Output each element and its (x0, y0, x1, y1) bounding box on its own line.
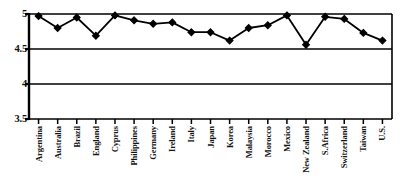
x-axis-category-label: Taiwan (359, 126, 368, 152)
x-axis-category-label: Japan (206, 126, 215, 148)
x-axis-category-label: New Zealand (302, 126, 311, 173)
x-axis-category-label: Italy (187, 126, 196, 143)
line-chart: 3.544.55 ArgentinaAustraliaBrazilEngland… (0, 0, 406, 186)
x-axis-category-label: Brazil (73, 126, 82, 148)
x-axis-category-label: Philippines (130, 126, 139, 166)
x-axis-category-label: England (92, 126, 101, 156)
x-axis-tick-labels: ArgentinaAustraliaBrazilEnglandCyprusPhi… (0, 0, 406, 186)
x-axis-category-label: Mexico (283, 126, 292, 152)
x-axis-category-label: Malaysia (244, 126, 253, 158)
x-axis-category-label: Cyprus (111, 126, 120, 152)
x-axis-category-label: Switzerland (340, 126, 349, 168)
x-axis-category-label: Argentina (34, 126, 43, 162)
x-axis-category-label: U.S. (378, 126, 387, 141)
x-axis-category-label: S.Africa (321, 126, 330, 155)
x-axis-category-label: Morocco (264, 126, 273, 157)
x-axis-category-label: Ireland (168, 126, 177, 152)
x-axis-category-label: Korea (225, 126, 234, 148)
x-axis-category-label: Germany (149, 126, 158, 160)
x-axis-category-label: Australia (53, 126, 62, 159)
